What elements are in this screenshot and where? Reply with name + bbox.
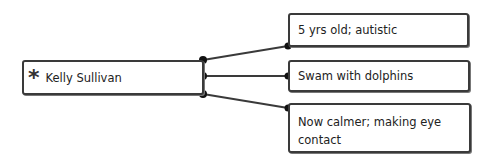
child-node-1[interactable]: 5 yrs old; autistic [288,13,469,47]
root-node[interactable]: * Kelly Sullivan [22,60,204,95]
child-node-label: Swam with dolphins [298,67,413,85]
child-node-3[interactable]: Now calmer; making eye contact [288,103,471,153]
link-to-child-1 [203,46,288,60]
link-to-child-3 [203,94,288,108]
child-node-label: Now calmer; making eye contact [298,115,441,147]
root-node-label: Kelly Sullivan [46,69,122,87]
child-node-label: 5 yrs old; autistic [298,21,397,39]
asterisk-icon: * [28,67,40,89]
child-node-2[interactable]: Swam with dolphins [288,60,470,92]
